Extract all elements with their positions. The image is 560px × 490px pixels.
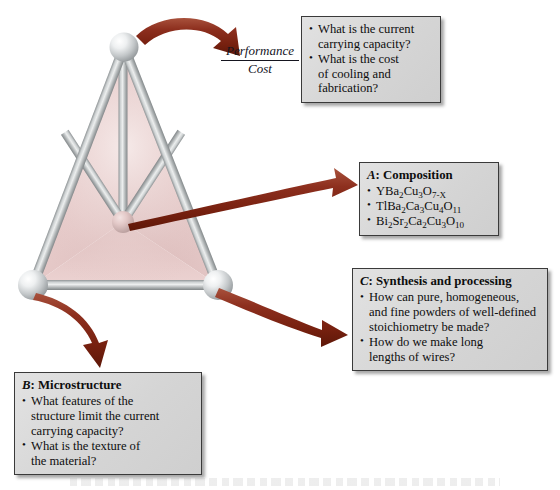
list-item: What features of the structure limit the… (22, 394, 193, 439)
microstructure-heading: B: Microstructure (22, 378, 193, 393)
synthesis-question-list: How can pure, homogeneous, and fine powd… (360, 290, 539, 364)
formula-ybco: YBa2Cu3O7-X (376, 184, 490, 199)
list-item: How do we make long lengths of wires? (360, 335, 539, 365)
composition-title: : Composition (376, 168, 453, 182)
microstructure-box: B: Microstructure What features of the s… (14, 372, 202, 475)
arrow-to-synthesis (215, 288, 348, 347)
composition-formula-list: YBa2Cu3O7-X TlBa2Ca3Cu4O11 Bi2Sr2Ca2Cu3O… (367, 184, 490, 229)
performance-cost-ratio: Performance Cost (221, 44, 299, 76)
synthesis-heading: C: Synthesis and processing (360, 274, 539, 289)
list-item: What is the cost of cooling and fabricat… (309, 52, 432, 97)
list-item: What is the texture of the material? (22, 439, 193, 469)
composition-letter: A (367, 168, 376, 182)
list-item: YBa2Cu3O7-X (367, 184, 490, 199)
list-item: Bi2Sr2Ca2Cu3O10 (367, 214, 490, 229)
synthesis-letter: C (360, 274, 369, 288)
figure-canvas: Performance Cost What is the current car… (0, 0, 560, 490)
synthesis-box: C: Synthesis and processing How can pure… (352, 268, 548, 371)
list-item: TlBa2Ca3Cu4O11 (367, 199, 490, 214)
ratio-denominator: Cost (221, 62, 299, 77)
performance-cost-box: What is the current carrying capacity? W… (301, 16, 441, 103)
composition-heading: A: Composition (367, 168, 490, 183)
ratio-numerator: Performance (221, 44, 299, 59)
list-item: What is the current carrying capacity? (309, 22, 432, 52)
caption-remnant (70, 478, 500, 486)
microstructure-letter: B (22, 378, 31, 392)
microstructure-title: : Microstructure (31, 378, 122, 392)
performance-question-list: What is the current carrying capacity? W… (309, 22, 432, 96)
composition-box: A: Composition YBa2Cu3O7-X TlBa2Ca3Cu4O1… (359, 162, 499, 236)
synthesis-title: : Synthesis and processing (369, 274, 512, 288)
list-item: How can pure, homogeneous, and fine powd… (360, 290, 539, 335)
formula-bscco: Bi2Sr2Ca2Cu3O10 (376, 214, 490, 229)
arrow-to-microstructure (33, 293, 108, 368)
formula-tlbccо: TlBa2Ca3Cu4O11 (376, 199, 490, 214)
node-top (110, 33, 139, 62)
microstructure-question-list: What features of the structure limit the… (22, 394, 193, 468)
